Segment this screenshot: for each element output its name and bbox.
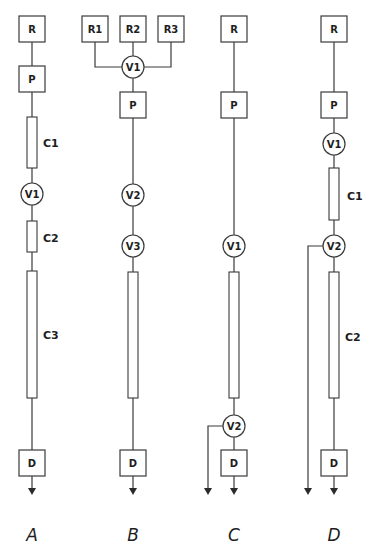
- outlet-arrow-icon: [129, 488, 137, 495]
- valve-v3: V3: [122, 235, 144, 257]
- reservoir-box: R: [221, 16, 247, 42]
- wire: [95, 42, 122, 67]
- reservoir-r1-box: R1: [82, 16, 108, 42]
- pump-label: P: [230, 100, 237, 111]
- valve-v2-label: V2: [227, 421, 242, 432]
- column-c3-label: C3: [43, 329, 59, 342]
- outlet-arrow-icon: [230, 488, 238, 495]
- wire: [144, 42, 171, 67]
- pump-label: P: [330, 100, 337, 111]
- reservoir-box: R: [321, 16, 347, 42]
- pump-box: P: [321, 92, 347, 118]
- valve-v2-label: V2: [327, 241, 342, 252]
- pump-box: P: [221, 92, 247, 118]
- panel-b: R1 R2 R3 V1 P V2 V3 D: [82, 16, 184, 545]
- column-c1-label: C1: [43, 137, 59, 150]
- detector-label: D: [28, 458, 36, 469]
- column: [229, 272, 239, 398]
- detector-box: D: [120, 450, 146, 476]
- column-c2: C2: [329, 272, 361, 398]
- pump-box: P: [19, 66, 45, 92]
- column-c2-label: C2: [345, 331, 361, 344]
- valve-v2: V2: [122, 184, 144, 206]
- panel-d: R P V1 C1 V2 C2 D D: [304, 16, 363, 545]
- reservoir-box: R: [19, 16, 45, 42]
- reservoir-r2-box: R2: [120, 16, 146, 42]
- detector-box: D: [321, 450, 347, 476]
- panel-a: R P C1 V1 C2 C3 D A: [19, 16, 59, 545]
- column: [128, 272, 138, 398]
- detector-label: D: [129, 458, 137, 469]
- reservoir-r3-label: R3: [164, 24, 179, 35]
- outlet-arrow-icon: [330, 488, 338, 495]
- panel-d-label: D: [327, 525, 340, 545]
- detector-label: D: [230, 458, 238, 469]
- valve-v2: V2: [323, 235, 345, 257]
- reservoir-r3-box: R3: [158, 16, 184, 42]
- valve-v3-label: V3: [126, 241, 141, 252]
- column-c1-label: C1: [347, 190, 363, 203]
- valve-v1-label: V1: [327, 139, 342, 150]
- pump-label: P: [28, 74, 35, 85]
- valve-v1-label: V1: [126, 62, 141, 73]
- waste-arrow-icon: [204, 488, 212, 495]
- pump-box: P: [120, 92, 146, 118]
- waste-arrow-icon: [304, 488, 312, 495]
- pump-label: P: [129, 100, 136, 111]
- reservoir-label: R: [330, 24, 338, 35]
- reservoir-label: R: [230, 24, 238, 35]
- reservoir-r2-label: R2: [126, 24, 141, 35]
- column-c3: C3: [27, 271, 59, 398]
- column-c2-label: C2: [43, 232, 59, 245]
- column-c1: C1: [329, 168, 363, 220]
- valve-v2-label: V2: [126, 190, 141, 201]
- flow-diagram: R P C1 V1 C2 C3 D A: [0, 0, 374, 559]
- panel-c: R P V1 V2 D C: [204, 16, 247, 545]
- valve-v1: V1: [223, 235, 245, 257]
- detector-box: D: [19, 450, 45, 476]
- outlet-arrow-icon: [28, 488, 36, 495]
- detector-box: D: [221, 450, 247, 476]
- valve-v1: V1: [122, 56, 144, 78]
- panel-b-label: B: [127, 525, 139, 545]
- panel-a-label: A: [25, 525, 38, 545]
- detector-label: D: [330, 458, 338, 469]
- reservoir-r1-label: R1: [88, 24, 103, 35]
- valve-v2: V2: [223, 415, 245, 437]
- valve-v1: V1: [323, 133, 345, 155]
- panel-c-label: C: [228, 525, 240, 545]
- reservoir-label: R: [28, 24, 36, 35]
- valve-v1-label: V1: [227, 241, 242, 252]
- valve-v1: V1: [21, 183, 43, 205]
- column-c2: C2: [27, 221, 59, 252]
- valve-v1-label: V1: [25, 189, 40, 200]
- column-c1: C1: [27, 117, 59, 168]
